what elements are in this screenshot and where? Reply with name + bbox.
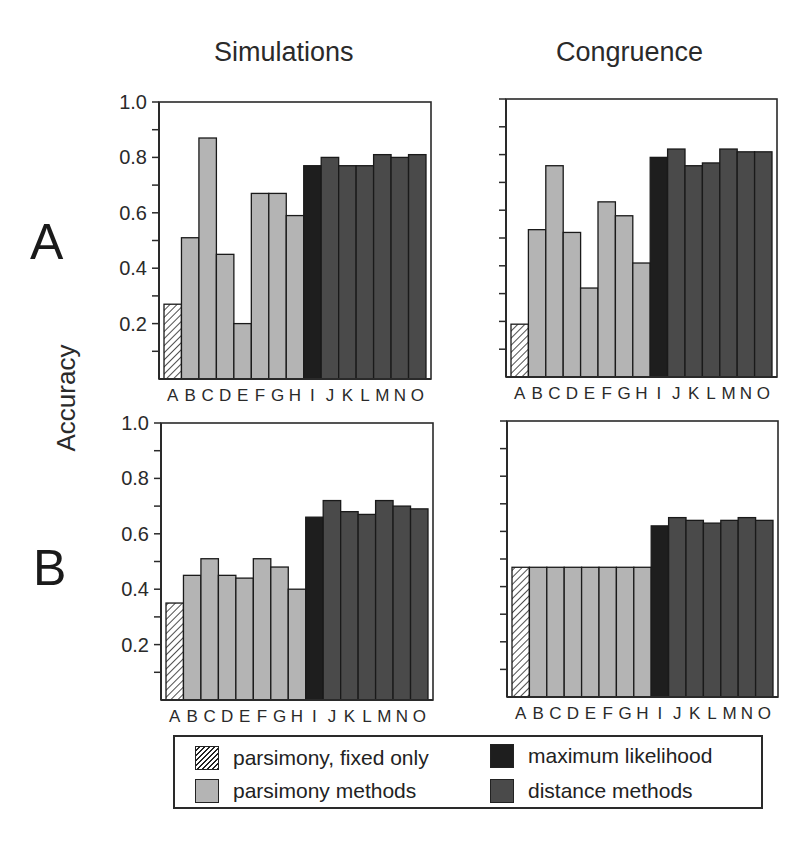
- bar-c: [199, 138, 216, 379]
- bar-h: [288, 589, 305, 700]
- x-tick-label: J: [328, 707, 337, 726]
- bar-m: [721, 520, 738, 697]
- x-tick-label: A: [514, 384, 526, 403]
- x-tick-label: J: [672, 384, 681, 403]
- x-tick-label: O: [413, 707, 426, 726]
- bar-j: [323, 501, 340, 700]
- bar-c: [546, 166, 563, 377]
- x-tick-label: G: [617, 384, 630, 403]
- x-tick-label: O: [757, 384, 770, 403]
- x-tick-label: L: [707, 704, 716, 723]
- legend-label: maximum likelihood: [528, 744, 712, 768]
- x-tick-label: G: [271, 386, 284, 405]
- x-tick-label: E: [584, 384, 595, 403]
- bar-l: [358, 514, 375, 700]
- x-tick-label: J: [673, 704, 682, 723]
- bar-l: [356, 166, 373, 379]
- legend-label: distance methods: [528, 779, 693, 803]
- bar-h: [286, 216, 303, 379]
- hatched-swatch-icon: [195, 746, 219, 770]
- x-tick-label: E: [585, 704, 596, 723]
- x-tick-label: K: [342, 386, 354, 405]
- x-tick-label: M: [377, 707, 391, 726]
- y-tick-label: 0.8: [119, 146, 147, 168]
- y-tick-label: 0.4: [119, 257, 147, 279]
- x-tick-label: K: [689, 704, 701, 723]
- x-tick-label: C: [202, 386, 214, 405]
- y-tick-label: 0.8: [121, 467, 149, 489]
- x-tick-label: G: [618, 704, 631, 723]
- legend-label: parsimony methods: [233, 779, 416, 803]
- bar-k: [339, 166, 356, 379]
- bar-i: [306, 517, 323, 700]
- x-tick-label: E: [237, 386, 248, 405]
- x-tick-label: F: [602, 384, 612, 403]
- x-tick-label: J: [326, 386, 335, 405]
- bar-i: [304, 166, 321, 379]
- x-tick-label: L: [362, 707, 371, 726]
- bar-o: [756, 520, 773, 697]
- bar-g: [616, 567, 633, 697]
- chart-grid: 0.20.40.60.81.0ABCDEFGHIJKLMNO ABCDEFGHI…: [0, 0, 809, 848]
- x-tick-label: H: [289, 386, 301, 405]
- bar-j: [669, 518, 686, 697]
- x-tick-label: N: [741, 704, 753, 723]
- bar-d: [218, 575, 235, 700]
- x-tick-label: B: [185, 386, 196, 405]
- x-tick-label: H: [635, 384, 647, 403]
- x-tick-label: N: [740, 384, 752, 403]
- x-tick-label: N: [396, 707, 408, 726]
- bar-e: [234, 324, 251, 379]
- x-tick-label: M: [375, 386, 389, 405]
- bar-m: [376, 501, 393, 700]
- chart-simulations-a: 0.20.40.60.81.0ABCDEFGHIJKLMNO: [119, 91, 431, 405]
- x-tick-label: F: [255, 386, 265, 405]
- y-tick-label: 1.0: [121, 412, 149, 434]
- legend-item-pars: parsimony methods: [195, 779, 416, 803]
- x-tick-label: M: [722, 704, 736, 723]
- y-tick-label: 1.0: [119, 91, 147, 113]
- x-tick-label: N: [394, 386, 406, 405]
- bar-k: [686, 520, 703, 697]
- light-gray-swatch-icon: [195, 779, 219, 803]
- chart-congruence-a: ABCDEFGHIJKLMNO: [499, 99, 777, 403]
- bar-k: [685, 166, 702, 377]
- y-tick-label: 0.2: [121, 634, 149, 656]
- x-tick-label: I: [312, 707, 317, 726]
- bar-e: [236, 578, 253, 700]
- x-tick-label: D: [221, 707, 233, 726]
- x-tick-label: C: [204, 707, 216, 726]
- bar-a: [164, 304, 181, 379]
- dark-gray-swatch-icon: [490, 779, 514, 803]
- x-tick-label: B: [531, 384, 542, 403]
- x-tick-label: O: [411, 386, 424, 405]
- legend-item-dist: distance methods: [490, 779, 693, 803]
- x-tick-label: A: [167, 386, 179, 405]
- y-tick-label: 0.4: [121, 578, 149, 600]
- bar-j: [321, 157, 338, 379]
- bar-g: [615, 216, 632, 377]
- bar-d: [563, 232, 580, 377]
- bar-i: [651, 526, 668, 697]
- x-tick-label: C: [548, 384, 560, 403]
- bar-k: [341, 512, 358, 700]
- bar-f: [598, 202, 615, 377]
- x-tick-label: F: [257, 707, 267, 726]
- legend-item-ml: maximum likelihood: [490, 744, 712, 768]
- bar-o: [411, 509, 428, 700]
- chart-congruence-b: ABCDEFGHIJKLMNO: [500, 421, 778, 723]
- black-swatch-icon: [490, 744, 514, 768]
- bar-h: [633, 263, 650, 377]
- x-tick-label: L: [706, 384, 715, 403]
- bar-g: [271, 567, 288, 700]
- x-tick-label: H: [636, 704, 648, 723]
- bar-f: [251, 193, 268, 379]
- chart-simulations-b: 0.20.40.60.81.0ABCDEFGHIJKLMNO: [121, 412, 433, 726]
- x-tick-label: I: [657, 384, 662, 403]
- x-tick-label: G: [273, 707, 286, 726]
- bar-b: [528, 230, 545, 377]
- x-tick-label: F: [603, 704, 613, 723]
- bar-d: [564, 567, 581, 697]
- x-tick-label: L: [360, 386, 369, 405]
- bar-c: [201, 559, 218, 700]
